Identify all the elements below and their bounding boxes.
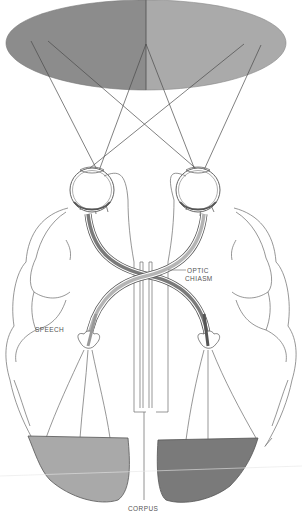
label-speech: SPEECH	[35, 326, 64, 333]
optic-radiations	[46, 350, 256, 440]
label-chiasm: CHIASM	[185, 275, 213, 282]
brain-outline	[6, 208, 296, 470]
visual-pathway-diagram	[0, 0, 302, 513]
visual-cortex-left	[28, 436, 129, 502]
label-optic: OPTIC	[187, 267, 209, 274]
label-corpus: CORPUS	[128, 505, 158, 512]
left-eye	[70, 167, 128, 212]
visual-field-right-half	[146, 0, 286, 90]
right-eye	[170, 167, 220, 212]
visual-field-left-half	[6, 0, 146, 90]
visual-cortex	[28, 436, 258, 502]
